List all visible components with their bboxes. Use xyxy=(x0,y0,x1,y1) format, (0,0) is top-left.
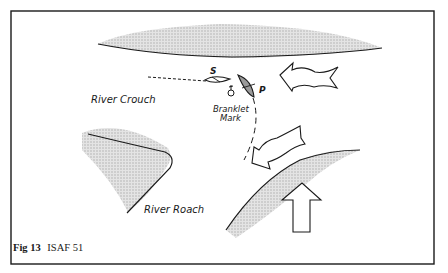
figure-number: Fig 13 xyxy=(13,242,41,253)
boat-s xyxy=(205,77,230,83)
river-roach-label: River Roach xyxy=(144,204,204,215)
tide-arrow-top-icon xyxy=(280,63,338,91)
river-crouch-label: River Crouch xyxy=(91,94,155,105)
boat-p-label: P xyxy=(259,85,266,95)
boat-s-label: S xyxy=(210,66,216,76)
branklet-mark-icon xyxy=(228,85,234,96)
figure-caption: Fig 13 ISAF 51 xyxy=(13,242,83,253)
figure-rule: ISAF 51 xyxy=(47,242,83,253)
mark-label-line2: Mark xyxy=(220,113,242,123)
boat-s-track xyxy=(148,77,206,81)
boat-p xyxy=(238,75,255,97)
diagram: S Branklet Mark P River Crouch River Roa… xyxy=(0,0,448,273)
west-point-shading xyxy=(82,128,171,212)
